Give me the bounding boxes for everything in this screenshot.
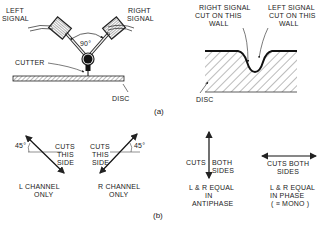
antiphase-title-line1: L & R EQUAL <box>189 184 234 192</box>
disc-section-label: DISC <box>196 96 214 103</box>
caption-b: (b) <box>153 211 163 220</box>
r-channel-diagram: 45° CUTS THIS SIDE R CHANNEL ONLY <box>90 134 145 198</box>
right-signal-label-line1: RIGHT <box>128 7 151 14</box>
r-channel-title-line2: ONLY <box>109 191 128 198</box>
disc-pointer <box>123 84 128 92</box>
in-phase-cut-label-line1: CUTS BOTH <box>267 160 309 167</box>
cutter-label: CUTTER <box>15 59 45 66</box>
l-channel-title-line1: L CHANNEL <box>19 183 60 190</box>
cutter-head-diagram: LEFT SIGNAL RIGHT SIGNAL 90° <box>2 7 154 102</box>
antiphase-cut-label-right-line1: BOTH <box>212 159 232 166</box>
disc-label: DISC <box>112 95 130 102</box>
caption-a: (a) <box>154 107 164 116</box>
l-cut-label-line1: CUTS <box>55 143 75 150</box>
in-phase-title-line2: IN PHASE <box>270 192 304 199</box>
r-angle-label: 45° <box>134 142 145 149</box>
antiphase-title-line3: ANTIPHASE <box>192 200 234 207</box>
right-wall-label-line3: WALL <box>209 20 229 27</box>
l-angle-arc <box>28 143 30 152</box>
antiphase-diagram: CUTS BOTH SIDES L & R EQUAL IN ANTIPHASE <box>186 132 234 207</box>
r-angle-arc <box>130 143 132 152</box>
left-wall-label-line3: WALL <box>279 20 299 27</box>
r-cut-label-line2: THIS <box>92 151 109 158</box>
disc-surface <box>13 76 124 81</box>
disc-cross-section <box>205 51 297 92</box>
angle-label-90: 90° <box>80 40 91 47</box>
antiphase-cut-label-left: CUTS <box>186 159 206 166</box>
antiphase-title-line2: IN <box>205 192 212 199</box>
in-phase-diagram: CUTS BOTH SIDES L & R EQUAL IN PHASE ( ≡… <box>262 156 316 208</box>
in-phase-cut-label-line2: SIDES <box>277 168 299 175</box>
cutter-pointer-arrow <box>48 63 84 72</box>
left-signal-label-line1: LEFT <box>6 7 24 14</box>
antiphase-cut-label-right-line2: SIDES <box>212 167 234 174</box>
right-signal-label-line2: SIGNAL <box>127 15 154 22</box>
stereo-cutting-diagram: LEFT SIGNAL RIGHT SIGNAL 90° <box>0 0 323 228</box>
r-channel-title-line1: R CHANNEL <box>98 183 140 190</box>
pivot-icon <box>84 55 93 64</box>
l-cut-label-line2: THIS <box>57 151 74 158</box>
stylus-icon <box>86 65 91 71</box>
r-cut-label-line3: SIDE <box>92 159 109 166</box>
right-wall-label-line1: RIGHT SIGNAL <box>199 4 251 11</box>
in-phase-title-line3: ( ≡ MONO ) <box>271 200 309 208</box>
l-angle-label: 45° <box>15 142 26 149</box>
groove-section-diagram: RIGHT SIGNAL CUT ON THIS WALL LEFT SIGNA… <box>195 4 316 103</box>
left-wall-label-line1: LEFT SIGNAL <box>268 4 315 11</box>
l-cut-label-line3: SIDE <box>57 159 74 166</box>
right-wall-label-line2: CUT ON THIS <box>195 12 242 19</box>
in-phase-title-line1: L & R EQUAL <box>270 184 315 192</box>
left-signal-label-line2: SIGNAL <box>2 15 29 22</box>
l-channel-diagram: 45° CUTS THIS SIDE L CHANNEL ONLY <box>15 136 75 198</box>
l-channel-title-line2: ONLY <box>34 191 53 198</box>
r-cut-label-line1: CUTS <box>90 143 110 150</box>
angle-arc-90 <box>73 33 103 38</box>
left-wall-label-line2: CUT ON THIS <box>269 12 316 19</box>
